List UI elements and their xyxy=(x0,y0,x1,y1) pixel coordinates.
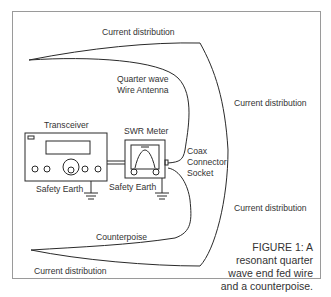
caption-line4: and a counterpoise. xyxy=(221,280,313,293)
counterpoise-label: Counterpoise xyxy=(96,232,147,243)
caption-line1: FIGURE 1: A xyxy=(221,241,313,254)
current-distribution-label-top: Current distribution xyxy=(102,27,175,38)
safety-earth-label-2: Safety Earth xyxy=(109,182,156,193)
figure-caption: FIGURE 1: A resonant quarter wave end fe… xyxy=(221,241,313,293)
swr-meter-label: SWR Meter xyxy=(124,126,168,137)
current-distribution-label-right-lower: Current distribution xyxy=(234,203,307,214)
safety-earth-label-1: Safety Earth xyxy=(36,184,83,195)
caption-line2: resonant quarter xyxy=(221,254,313,267)
coax-label-line3: Socket xyxy=(187,168,213,179)
antenna-label-line1: Quarter wave xyxy=(117,74,169,85)
coax-label-line1: Coax xyxy=(187,146,207,157)
caption-line3: wave end fed wire xyxy=(221,267,313,280)
transceiver-label: Transceiver xyxy=(44,120,89,131)
current-distribution-label-bottom: Current distribution xyxy=(34,266,107,277)
coax-label-line2: Connector xyxy=(187,157,227,168)
current-distribution-label-right-upper: Current distribution xyxy=(234,98,307,109)
antenna-label-line2: Wire Antenna xyxy=(117,85,169,96)
